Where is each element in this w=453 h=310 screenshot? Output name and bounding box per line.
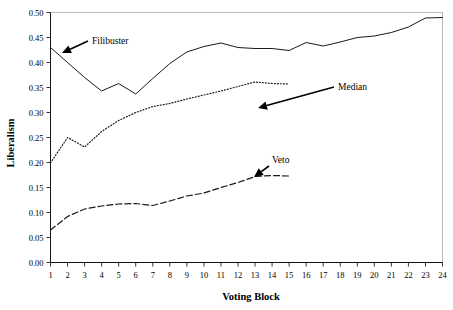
x-tick-label: 9 <box>185 270 189 280</box>
annotation-arrow-shaft <box>70 41 88 49</box>
x-tick-label: 12 <box>234 270 243 280</box>
annotation-group: FilibusterMedianVeto <box>62 36 367 177</box>
x-tick-label: 22 <box>404 270 413 280</box>
y-tick-label: 0.20 <box>29 158 44 168</box>
x-tick-label: 14 <box>268 270 277 280</box>
y-tick-label: 0.05 <box>29 233 44 243</box>
x-tick-label: 21 <box>387 270 396 280</box>
x-tick-label: 7 <box>151 270 155 280</box>
series-group <box>51 18 443 231</box>
series-label-veto: Veto <box>272 155 290 165</box>
x-tick-label: 4 <box>100 270 105 280</box>
y-axis-title: Liberalism <box>5 118 16 167</box>
x-tick-label: 11 <box>217 270 225 280</box>
y-tick-label: 0.10 <box>29 208 44 218</box>
x-tick-label: 2 <box>65 270 69 280</box>
plot-border <box>51 13 443 263</box>
x-tick-label: 5 <box>117 270 121 280</box>
x-tick-label: 3 <box>82 270 86 280</box>
chart-figure: 0.000.050.100.150.200.250.300.350.400.45… <box>0 0 453 310</box>
annotation-arrow-shaft <box>267 87 334 106</box>
y-tick-label: 0.40 <box>29 58 44 68</box>
series-line-filibuster <box>51 18 443 95</box>
x-axis-ticks: 123456789101112131415161718192021222324 <box>48 263 447 280</box>
series-label-filibuster: Filibuster <box>92 36 129 46</box>
x-tick-label: 20 <box>370 270 379 280</box>
y-axis-ticks: 0.000.050.100.150.200.250.300.350.400.45… <box>29 8 51 268</box>
y-tick-label: 0.25 <box>29 133 44 143</box>
x-tick-label: 17 <box>319 270 328 280</box>
annotation-arrow-shaft <box>261 166 269 172</box>
x-tick-label: 8 <box>168 270 172 280</box>
annotation-arrow-head <box>254 168 264 177</box>
x-tick-label: 23 <box>421 270 430 280</box>
y-tick-label: 0.35 <box>29 83 44 93</box>
y-tick-label: 0.50 <box>29 8 44 18</box>
x-tick-label: 10 <box>200 270 209 280</box>
x-tick-label: 24 <box>438 270 447 280</box>
series-label-median: Median <box>338 82 367 92</box>
x-tick-label: 18 <box>336 270 345 280</box>
x-tick-label: 19 <box>353 270 362 280</box>
series-line-median <box>51 82 290 163</box>
x-tick-label: 13 <box>251 270 260 280</box>
y-tick-label: 0.00 <box>29 258 44 268</box>
annotation-arrow-head <box>258 102 268 110</box>
x-axis-title: Voting Block <box>222 291 280 302</box>
y-tick-label: 0.15 <box>29 183 44 193</box>
line-chart: 0.000.050.100.150.200.250.300.350.400.45… <box>0 0 453 310</box>
y-tick-label: 0.30 <box>29 108 44 118</box>
plot-frame <box>51 13 443 263</box>
x-tick-label: 6 <box>134 270 138 280</box>
x-tick-label: 1 <box>48 270 52 280</box>
x-tick-label: 15 <box>285 270 294 280</box>
x-tick-label: 16 <box>302 270 311 280</box>
y-tick-label: 0.45 <box>29 33 44 43</box>
series-line-veto <box>51 176 290 231</box>
